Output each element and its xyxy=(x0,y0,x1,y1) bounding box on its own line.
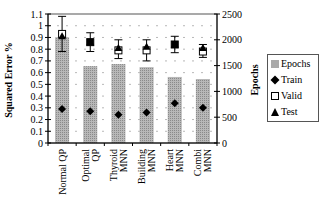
y-axis-title: Squared Error % xyxy=(3,42,14,118)
test-triangle xyxy=(143,43,151,50)
y2-tick-label: 500 xyxy=(222,112,237,123)
category-label-line: MNN xyxy=(118,149,129,172)
epochs-bar xyxy=(55,37,69,143)
diamond-icon xyxy=(270,75,279,84)
epochs-bar xyxy=(111,64,125,143)
test-marker-overlap xyxy=(171,41,178,48)
y-tick-label: 0.1 xyxy=(31,126,44,137)
category-label-line: MNN xyxy=(174,149,185,172)
legend: Epochs Train Valid Test xyxy=(267,54,319,122)
y-tick-label: 1 xyxy=(38,20,43,31)
y-tick-label: 0.2 xyxy=(31,114,44,125)
y-tick-label: 0.8 xyxy=(31,44,44,55)
legend-label: Epochs xyxy=(281,58,310,69)
category-label: HeartMNN xyxy=(164,149,185,173)
open-square-icon xyxy=(271,92,279,100)
y2-tick-label: 2500 xyxy=(222,9,242,20)
category-label: BuildingMNN xyxy=(136,149,157,184)
hatched-square-icon xyxy=(271,60,279,68)
epochs-bars xyxy=(55,37,210,143)
category-label-line: Normal QP xyxy=(57,149,68,195)
category-label: ThyroidMNN xyxy=(108,149,129,181)
error-bars xyxy=(58,16,207,61)
plot-frame xyxy=(48,14,217,143)
category-label-line: MNN xyxy=(146,149,157,172)
y2-tick-label: 1500 xyxy=(222,60,242,71)
category-labels: Normal QPOptimalQPThyroidMNNBuildingMNNH… xyxy=(57,149,214,195)
y-tick-label: 0.9 xyxy=(31,32,44,43)
category-label-line: MNN xyxy=(202,149,213,172)
legend-item-epochs: Epochs xyxy=(271,57,310,71)
category-label: OptimalQP xyxy=(80,149,101,182)
y2-tick-label: 1000 xyxy=(222,86,242,97)
gridlines xyxy=(48,26,217,132)
legend-item-train: Train xyxy=(271,73,302,87)
y-tick-label: 0.4 xyxy=(31,91,44,102)
y-tick-label: 0 xyxy=(38,138,43,149)
epochs-bar xyxy=(168,77,182,143)
right-axis-ticks: 05001000150020002500 xyxy=(214,9,242,149)
y2-tick-label: 2000 xyxy=(222,34,242,45)
y-tick-label: 0.7 xyxy=(31,55,44,66)
y2-tick-label: 0 xyxy=(222,138,227,149)
test-triangle xyxy=(199,44,207,51)
y-tick-label: 1.1 xyxy=(31,9,44,20)
category-label: CombiMNN xyxy=(192,149,213,176)
axes xyxy=(48,14,217,146)
epochs-bar xyxy=(140,67,154,143)
category-label-line: QP xyxy=(90,149,101,162)
legend-label: Train xyxy=(281,74,302,85)
legend-item-test: Test xyxy=(271,105,298,119)
y-tick-label: 0.5 xyxy=(31,79,44,90)
legend-item-valid: Valid xyxy=(271,89,302,103)
data-markers xyxy=(58,30,207,118)
triangle-icon xyxy=(271,108,279,116)
legend-label: Valid xyxy=(281,90,302,101)
y-tick-label: 0.6 xyxy=(31,67,44,78)
epochs-bar xyxy=(83,66,97,143)
test-marker-overlap xyxy=(87,39,94,46)
category-label: Normal QP xyxy=(57,149,68,195)
legend-label: Test xyxy=(281,106,298,117)
y2-axis-title: Epochs xyxy=(249,64,260,95)
y-tick-label: 0.3 xyxy=(31,102,44,113)
